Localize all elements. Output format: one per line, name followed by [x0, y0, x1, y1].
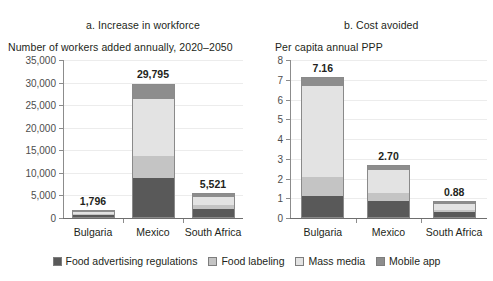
panel-a-subtitle: Number of workers added annually, 2020–2…	[8, 41, 233, 53]
x-axis-tick	[123, 219, 124, 223]
bar-segment-mobile-app	[133, 85, 174, 100]
plot-area-b: 0123456787.16Bulgaria2.70Mexico0.88South…	[263, 60, 493, 228]
y-axis-line	[63, 60, 64, 218]
legend-item-mobile-app[interactable]: Mobile app	[376, 255, 440, 267]
y-axis-line	[290, 60, 291, 218]
bar-total-label: 7.16	[313, 62, 333, 74]
bar-segment-mass-media	[302, 86, 343, 177]
y-axis-tick-label: 15,000	[0, 145, 56, 156]
bar-total-label: 0.88	[444, 186, 464, 198]
bar-segment-food-advertising-regulations	[368, 201, 409, 217]
x-axis-category-label: South Africa	[426, 226, 483, 238]
x-axis-category-label: Bulgaria	[304, 226, 343, 238]
bar-bulgaria[interactable]	[72, 210, 115, 218]
panel-b-subtitle: Per capita annual PPP	[275, 41, 383, 53]
bar-segment-mass-media	[193, 197, 234, 205]
bar-segment-food-labeling	[133, 156, 174, 178]
legend-item-mass-media[interactable]: Mass media	[295, 255, 365, 267]
plot-area-a: 05,00010,00015,00020,00025,00030,00035,0…	[0, 60, 250, 228]
y-axis-tick-label: 4	[263, 134, 283, 145]
y-axis-tick-label: 8	[263, 55, 283, 66]
y-axis-tick-label: 2	[263, 173, 283, 184]
chart-legend: Food advertising regulationsFood labelin…	[0, 255, 493, 267]
bar-segment-mass-media	[368, 170, 409, 192]
legend-item-label: Food labeling	[221, 255, 284, 267]
x-axis-tick	[421, 219, 422, 223]
y-axis-tick-label: 25,000	[0, 100, 56, 111]
y-axis-tick-label: 0	[263, 213, 283, 224]
figure-root: a. Increase in workforce Number of worke…	[0, 0, 493, 281]
bar-segment-food-labeling	[368, 193, 409, 201]
y-axis-tick-label: 5	[263, 114, 283, 125]
legend-item-label: Mobile app	[389, 255, 440, 267]
chart-panel-a: 05,00010,00015,00020,00025,00030,00035,0…	[0, 60, 250, 228]
x-axis-category-label: Mexico	[136, 226, 169, 238]
panel-b-title: b. Cost avoided	[344, 19, 418, 31]
y-axis-tick-label: 0	[0, 213, 56, 224]
bar-segment-food-advertising-regulations	[193, 209, 234, 217]
y-axis-tick-label: 6	[263, 94, 283, 105]
legend-swatch-icon	[53, 257, 62, 266]
chart-panel-b: 0123456787.16Bulgaria2.70Mexico0.88South…	[263, 60, 493, 228]
y-axis-tick-label: 3	[263, 153, 283, 164]
bar-total-label: 2.70	[378, 150, 398, 162]
bar-total-label: 29,795	[137, 68, 169, 80]
gridline	[63, 60, 243, 61]
x-axis-category-label: South Africa	[185, 226, 242, 238]
legend-swatch-icon	[376, 257, 385, 266]
bar-segment-mass-media	[133, 99, 174, 156]
x-axis-line	[63, 218, 243, 219]
y-axis-tick-label: 35,000	[0, 55, 56, 66]
panel-a-title: a. Increase in workforce	[86, 19, 200, 31]
bar-segment-mobile-app	[302, 78, 343, 87]
legend-item-food-labeling[interactable]: Food labeling	[208, 255, 284, 267]
bar-segment-food-advertising-regulations	[434, 212, 475, 217]
bar-mexico[interactable]	[132, 84, 175, 219]
y-axis-tick-label: 30,000	[0, 77, 56, 88]
bar-south-africa[interactable]	[433, 201, 476, 218]
bar-total-label: 1,796	[80, 195, 106, 207]
x-axis-tick	[183, 219, 184, 223]
legend-item-label: Mass media	[308, 255, 365, 267]
bar-mexico[interactable]	[367, 165, 410, 218]
y-axis-tick-label: 10,000	[0, 167, 56, 178]
bar-segment-food-advertising-regulations	[302, 196, 343, 217]
x-axis-line	[290, 218, 487, 219]
y-axis-tick-label: 7	[263, 74, 283, 85]
bar-segment-food-labeling	[302, 177, 343, 196]
x-axis-tick	[356, 219, 357, 223]
bar-total-label: 5,521	[200, 178, 226, 190]
bar-segment-food-advertising-regulations	[133, 178, 174, 217]
bar-bulgaria[interactable]	[301, 77, 344, 218]
bar-segment-food-advertising-regulations	[73, 215, 114, 217]
legend-swatch-icon	[208, 257, 217, 266]
legend-item-label: Food advertising regulations	[66, 255, 198, 267]
x-axis-category-label: Mexico	[372, 226, 405, 238]
legend-swatch-icon	[295, 257, 304, 266]
legend-item-food-advertising-regulations[interactable]: Food advertising regulations	[53, 255, 198, 267]
bar-south-africa[interactable]	[192, 193, 235, 218]
x-axis-category-label: Bulgaria	[74, 226, 113, 238]
y-axis-tick-label: 20,000	[0, 122, 56, 133]
y-axis-tick-label: 1	[263, 193, 283, 204]
y-axis-tick-label: 5,000	[0, 190, 56, 201]
